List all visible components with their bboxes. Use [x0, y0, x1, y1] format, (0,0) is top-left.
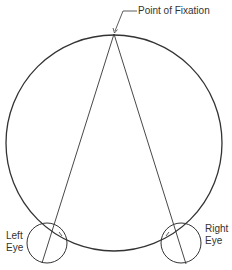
left-eye-label-line1: Left: [6, 230, 23, 242]
right-eye-sight-line: [114, 34, 186, 264]
left-eye-circle: [27, 223, 67, 263]
horopter-circle: [6, 35, 222, 251]
left-eye-label: Left Eye: [6, 230, 23, 254]
left-eye-angle-mark: [59, 232, 62, 236]
fixation-leader-line: [115, 11, 137, 31]
right-eye-label-line1: Right: [205, 223, 228, 235]
left-eye-label-line2: Eye: [6, 242, 23, 254]
right-eye-circle: [161, 223, 201, 263]
right-eye-label: Right Eye: [205, 223, 228, 247]
fixation-label: Point of Fixation: [138, 5, 210, 17]
right-eye-label-line2: Eye: [205, 235, 228, 247]
binocular-fixation-diagram: [0, 0, 232, 270]
left-eye-sight-line: [42, 34, 114, 263]
right-eye-angle-mark: [166, 232, 169, 236]
